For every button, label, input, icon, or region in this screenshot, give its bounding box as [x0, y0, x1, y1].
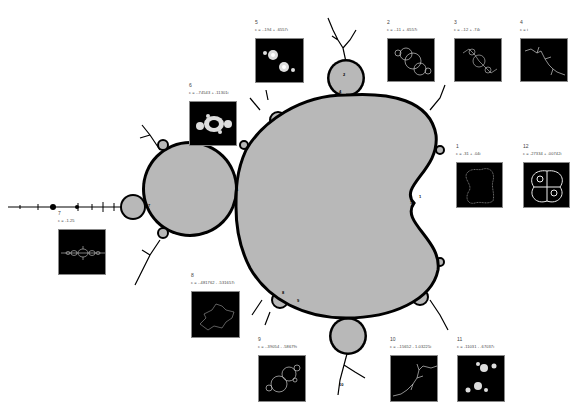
- thumb-c-value: c = -.15652 - 1.03225i: [390, 344, 431, 349]
- julia-image: [520, 38, 568, 82]
- thumb-c-value: c = .27334 + .00742i: [523, 151, 561, 156]
- marker-6: 6: [236, 188, 238, 192]
- antenna: [8, 202, 128, 212]
- thumb-c-value: c = -.12 + .74i: [454, 27, 480, 32]
- marker-7: 7: [148, 204, 150, 208]
- thumb-c-value: c = .11031 - .67037i: [457, 344, 494, 349]
- thumb-c-value: c = -1.25: [58, 218, 75, 223]
- julia-image: [457, 355, 505, 402]
- marker-12: 12: [410, 201, 414, 205]
- thumb-number: 4: [520, 20, 523, 25]
- thumb-c-value: c = .31 + .04i: [456, 151, 481, 156]
- marker-8: 8: [282, 291, 284, 295]
- marker-10: 10: [339, 383, 343, 387]
- thumb-c-value: c = -.481762 - .531657i: [191, 280, 235, 285]
- marker-1: 1: [419, 195, 421, 199]
- thumb-number: 1: [456, 144, 459, 149]
- main-cardioid: [236, 94, 438, 318]
- thumb-number: 10: [390, 337, 396, 342]
- thumb-c-value: c = -.11 + .6557i: [387, 27, 417, 32]
- marker-2-3: 2: [343, 73, 345, 77]
- thumb-number: 9: [258, 337, 261, 342]
- thumb-number: 8: [191, 273, 194, 278]
- marker-9: 9: [297, 299, 299, 303]
- marker-4: 4: [339, 90, 341, 94]
- thumb-c-value: c = i: [520, 27, 528, 32]
- julia-image: [523, 162, 570, 208]
- julia-image: [456, 162, 503, 208]
- julia-image: [255, 38, 304, 83]
- thumb-c-value: c = -.194 + .6557i: [255, 27, 288, 32]
- julia-image: [387, 38, 435, 82]
- mandelbrot-figure: 2 4 6 7 1 12 8 9 10 5 c = -.194 + .6557i…: [0, 0, 574, 408]
- thumb-number: 5: [255, 20, 258, 25]
- thumb-c-value: c = -.74543 + .11301i: [189, 90, 229, 95]
- julia-image: [258, 355, 306, 402]
- thumb-number: 11: [457, 337, 462, 342]
- thumb-number: 7: [58, 211, 61, 216]
- thumb-number: 12: [523, 144, 529, 149]
- thumb-number: 3: [454, 20, 457, 25]
- julia-image: [191, 291, 240, 338]
- thumb-c-value: c = -.39054 - .58679i: [258, 344, 297, 349]
- julia-image: [454, 38, 502, 82]
- julia-image: [58, 229, 106, 275]
- thumb-number: 2: [387, 20, 390, 25]
- julia-image: [390, 355, 438, 402]
- thumb-number: 6: [189, 83, 192, 88]
- julia-image: [189, 101, 237, 146]
